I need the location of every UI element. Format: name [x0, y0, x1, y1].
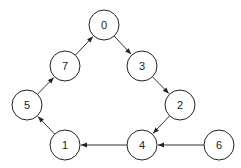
node-label: 3	[139, 60, 145, 72]
edge-7-to-0	[75, 37, 93, 56]
node-5: 5	[12, 90, 42, 120]
edge-5-to-7	[37, 77, 53, 94]
node-6: 6	[204, 130, 234, 160]
edge-2-to-4	[153, 116, 170, 134]
node-2: 2	[165, 90, 195, 120]
node-3: 3	[127, 51, 157, 81]
node-label: 0	[101, 19, 107, 31]
node-label: 4	[139, 139, 145, 151]
node-label: 5	[24, 99, 30, 111]
node-label: 1	[62, 139, 68, 151]
directed-graph: 07352146	[0, 0, 241, 168]
node-1: 1	[50, 130, 80, 160]
node-label: 6	[216, 139, 222, 151]
edge-1-to-5	[38, 117, 55, 135]
edge-3-to-2	[152, 77, 168, 94]
nodes-layer: 07352146	[12, 10, 234, 160]
node-label: 2	[177, 99, 183, 111]
edge-0-to-3	[114, 36, 131, 54]
node-label: 7	[62, 60, 68, 72]
node-7: 7	[50, 51, 80, 81]
node-4: 4	[127, 130, 157, 160]
node-0: 0	[89, 10, 119, 40]
